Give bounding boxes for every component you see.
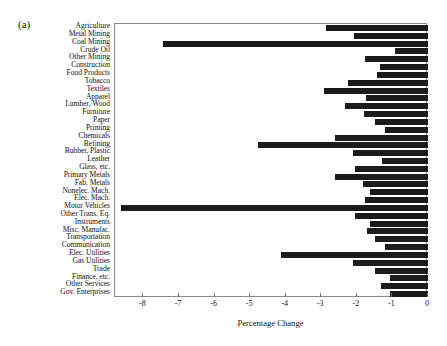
x-tick-mark bbox=[178, 293, 179, 297]
bar bbox=[354, 33, 428, 39]
x-tick-label: -7 bbox=[175, 299, 182, 308]
bar bbox=[163, 41, 428, 47]
x-axis: -8-7-6-5-4-3-2-10 bbox=[114, 297, 427, 317]
bar bbox=[345, 103, 428, 109]
bar bbox=[258, 142, 428, 148]
x-tick-mark bbox=[320, 293, 321, 297]
bar bbox=[385, 127, 428, 133]
bar bbox=[375, 268, 428, 274]
bar bbox=[390, 275, 428, 281]
x-tick-mark bbox=[142, 293, 143, 297]
x-tick-mark bbox=[427, 293, 428, 297]
category-label: Gov. Enterprises bbox=[6, 288, 110, 296]
bar bbox=[395, 48, 428, 54]
x-tick-label: -8 bbox=[139, 299, 146, 308]
plot-area bbox=[114, 23, 427, 297]
bar bbox=[363, 181, 428, 187]
x-tick-mark bbox=[391, 293, 392, 297]
x-tick-label: -1 bbox=[388, 299, 395, 308]
x-tick-label: -4 bbox=[281, 299, 288, 308]
category-axis-labels: AgricultureMetal MiningCoal MiningCrude … bbox=[6, 22, 110, 296]
bar bbox=[335, 135, 428, 141]
bar bbox=[381, 283, 428, 289]
bar bbox=[385, 244, 428, 250]
bar bbox=[382, 158, 428, 164]
x-tick-mark bbox=[356, 293, 357, 297]
bar bbox=[370, 189, 428, 195]
bar bbox=[355, 213, 428, 219]
bar bbox=[281, 252, 428, 258]
figure-panel: (a) AgricultureMetal MiningCoal MiningCr… bbox=[0, 0, 447, 346]
bar bbox=[353, 260, 428, 266]
bar bbox=[367, 228, 428, 234]
x-tick-label: -2 bbox=[353, 299, 360, 308]
bar bbox=[365, 56, 428, 62]
bar bbox=[326, 25, 428, 31]
bar bbox=[121, 205, 428, 211]
bar bbox=[355, 166, 428, 172]
x-tick-label: -3 bbox=[317, 299, 324, 308]
bar bbox=[348, 80, 428, 86]
bar bbox=[377, 72, 428, 78]
x-tick-label: -6 bbox=[210, 299, 217, 308]
x-tick-mark bbox=[214, 293, 215, 297]
bar bbox=[324, 88, 428, 94]
x-tick-label: -5 bbox=[246, 299, 253, 308]
bar bbox=[375, 119, 428, 125]
x-tick-mark bbox=[249, 293, 250, 297]
bar bbox=[380, 64, 428, 70]
bar-series bbox=[115, 24, 426, 296]
bar bbox=[365, 197, 428, 203]
x-axis-title: Percentage Change bbox=[114, 318, 427, 328]
bar bbox=[353, 150, 428, 156]
x-tick-label: 0 bbox=[425, 299, 429, 308]
bar bbox=[375, 236, 428, 242]
bar bbox=[366, 95, 428, 101]
bar bbox=[335, 174, 428, 180]
bar bbox=[370, 221, 428, 227]
bar bbox=[364, 111, 428, 117]
x-tick-mark bbox=[285, 293, 286, 297]
